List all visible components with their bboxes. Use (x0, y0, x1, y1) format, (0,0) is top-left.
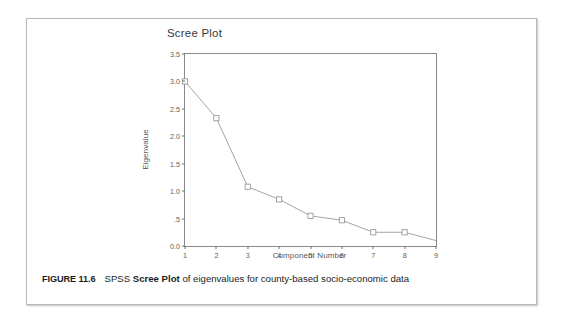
y-axis-tick-label: 1.0 (170, 187, 180, 196)
data-point-marker (402, 230, 407, 235)
y-axis-tick-mark (182, 81, 185, 82)
x-axis-tick-mark (216, 246, 217, 249)
x-axis-tick-mark (404, 246, 405, 249)
data-point-marker (339, 218, 344, 223)
y-axis-tick-mark (182, 108, 185, 109)
y-axis-tick-label: 2.5 (170, 104, 180, 113)
x-axis-tick-mark (310, 246, 311, 249)
y-axis-tick-label: 2.0 (170, 132, 180, 141)
y-axis-tick-label: 3.0 (170, 77, 180, 86)
y-axis-tick-label: 3.5 (170, 50, 180, 59)
plot-series-svg (185, 54, 436, 246)
x-axis-tick-mark (185, 246, 186, 249)
x-axis-tick-mark (341, 246, 342, 249)
y-axis-title-label: Eigenvalue (141, 129, 150, 170)
data-point-marker (214, 116, 219, 121)
y-axis-tick-label: 0.0 (170, 242, 180, 251)
y-axis-tick-mark (182, 136, 185, 137)
caption-text-before: SPSS (105, 273, 133, 284)
y-axis-tick-label: .5 (174, 214, 180, 223)
y-axis-tick-mark (182, 163, 185, 164)
y-axis-title: Eigenvalue (138, 53, 152, 245)
plot-frame: 3.53.02.52.01.51.0.50.0123456789 (184, 53, 437, 247)
caption-text-after: of eigenvalues for county-based socio-ec… (180, 273, 409, 284)
series-line (185, 81, 405, 232)
x-axis-tick-mark (279, 246, 280, 249)
figure-card: Scree Plot 3.53.02.52.01.51.0.50.0123456… (26, 18, 537, 305)
caption-text-bold: Scree Plot (133, 273, 180, 284)
figure-number: FIGURE 11.6 (42, 274, 96, 284)
figure-caption: FIGURE 11.6SPSS Scree Plot of eigenvalue… (42, 272, 527, 286)
scree-plot-chart: Scree Plot 3.53.02.52.01.51.0.50.0123456… (27, 19, 538, 264)
y-axis-tick-mark (182, 191, 185, 192)
x-axis-tick-mark (373, 246, 374, 249)
y-axis-tick-mark (182, 54, 185, 55)
x-axis-title: Component Number (184, 251, 435, 260)
x-axis-tick-mark (247, 246, 248, 249)
chart-title: Scree Plot (167, 27, 222, 39)
x-axis-tick-mark (436, 246, 437, 249)
data-point-marker (277, 197, 282, 202)
series-line-tail (405, 232, 436, 240)
y-axis-tick-mark (182, 218, 185, 219)
data-point-marker (245, 184, 250, 189)
data-point-marker (371, 230, 376, 235)
data-point-marker (308, 213, 313, 218)
caption-divider (27, 263, 538, 264)
y-axis-tick-label: 1.5 (170, 159, 180, 168)
